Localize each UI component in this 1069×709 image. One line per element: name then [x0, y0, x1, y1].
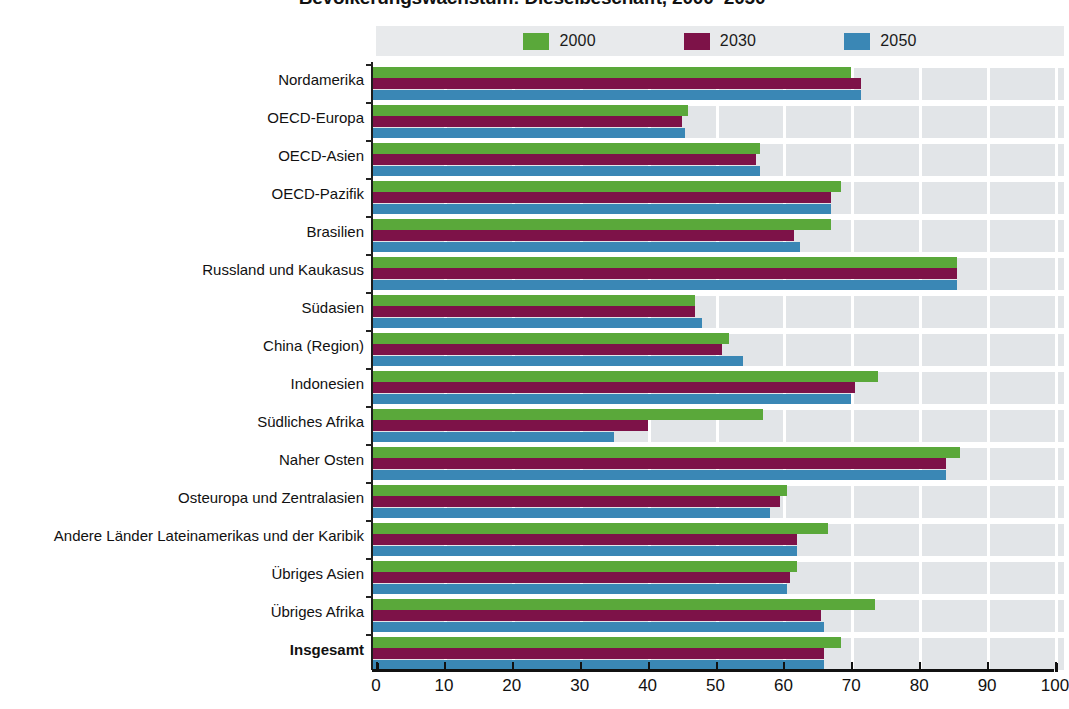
x-tick-50	[716, 662, 718, 670]
y-tick	[366, 140, 373, 142]
bar-2000--briges-afrika	[372, 599, 875, 610]
x-tick-20	[512, 662, 514, 670]
category-label-s-dliches-afrika: Südliches Afrika	[0, 414, 364, 430]
bar-2050-andere-l-nder-lateinamerikas-und-der-karibik	[372, 546, 797, 557]
legend-item-2000: 2000	[523, 32, 595, 50]
bar-2050-indonesien	[372, 394, 851, 405]
category-label-insgesamt: Insgesamt	[0, 642, 364, 658]
y-tick	[366, 216, 373, 218]
x-tick-label-50: 50	[706, 676, 725, 696]
x-tick-label-100: 100	[1041, 676, 1069, 696]
bar-2030-andere-l-nder-lateinamerikas-und-der-karibik	[372, 534, 797, 545]
y-tick	[366, 330, 373, 332]
bar-2030-osteuropa-und-zentralasien	[372, 496, 780, 507]
bar-2030-oecd-asien	[372, 154, 756, 165]
legend-swatch-2000	[523, 33, 549, 50]
category-label-oecd-europa: OECD-Europa	[0, 110, 364, 126]
category-label-china-region-: China (Region)	[0, 338, 364, 354]
y-tick	[366, 634, 373, 636]
bar-2050--briges-asien	[372, 584, 787, 595]
category-label-brasilien: Brasilien	[0, 224, 364, 240]
bar-2030-indonesien	[372, 382, 855, 393]
bar-2030-russland-und-kaukasus	[372, 268, 957, 279]
y-tick	[366, 292, 373, 294]
x-tick-10	[444, 662, 446, 670]
category-label-osteuropa-und-zentralasien: Osteuropa und Zentralasien	[0, 490, 364, 506]
x-tick-label-40: 40	[638, 676, 657, 696]
legend-swatch-2050	[844, 33, 870, 50]
x-tick-label-90: 90	[978, 676, 997, 696]
bar-2050-oecd-europa	[372, 128, 685, 139]
y-tick	[366, 406, 373, 408]
bar-2050-nordamerika	[372, 90, 861, 101]
category-label-s-dasien: Südasien	[0, 300, 364, 316]
plot-area	[372, 62, 1064, 670]
bar-2000-nordamerika	[372, 67, 851, 78]
category-label-indonesien: Indonesien	[0, 376, 364, 392]
bar-2030-insgesamt	[372, 648, 824, 659]
x-axis-line	[372, 669, 1054, 672]
bar-2000-insgesamt	[372, 637, 841, 648]
y-tick	[366, 520, 373, 522]
x-tick-label-30: 30	[570, 676, 589, 696]
x-tick-60	[783, 662, 785, 670]
legend-label-2030: 2030	[720, 32, 756, 50]
bar-2030--briges-asien	[372, 572, 790, 583]
bar-2030-oecd-europa	[372, 116, 682, 127]
bar-2030-naher-osten	[372, 458, 946, 469]
x-tick-label-20: 20	[502, 676, 521, 696]
bar-2050--briges-afrika	[372, 622, 824, 633]
bar-2030-s-dliches-afrika	[372, 420, 648, 431]
bar-2030-oecd-pazifik	[372, 192, 831, 203]
bar-2000-s-dliches-afrika	[372, 409, 763, 420]
category-label-russland-und-kaukasus: Russland und Kaukasus	[0, 262, 364, 278]
chart-legend: 2000 2030 2050	[376, 26, 1064, 56]
x-tick-label-10: 10	[434, 676, 453, 696]
bar-2050-s-dasien	[372, 318, 702, 329]
bar-2050-naher-osten	[372, 470, 946, 481]
legend-item-2030: 2030	[684, 32, 756, 50]
category-label-oecd-pazifik: OECD-Pazifik	[0, 186, 364, 202]
bar-2000-indonesien	[372, 371, 878, 382]
chart-title: Bevölkerungswachstum: Dieselbeschafft, 2…	[0, 0, 1064, 11]
legend-label-2000: 2000	[559, 32, 595, 50]
bar-2000-naher-osten	[372, 447, 960, 458]
category-label--briges-afrika: Übriges Afrika	[0, 604, 364, 620]
bar-2050-china-region-	[372, 356, 743, 367]
category-label-andere-l-nder-lateinamerikas-und-der-karibik: Andere Länder Lateinamerikas und der Kar…	[0, 528, 364, 544]
bar-2000-osteuropa-und-zentralasien	[372, 485, 787, 496]
category-label--briges-asien: Übriges Asien	[0, 566, 364, 582]
y-tick	[366, 178, 373, 180]
x-tick-90	[987, 662, 989, 670]
bar-2050-s-dliches-afrika	[372, 432, 614, 443]
y-tick	[366, 102, 373, 104]
bar-2030-brasilien	[372, 230, 794, 241]
legend-item-2050: 2050	[844, 32, 916, 50]
axis-end-cap	[376, 663, 379, 672]
bar-2030-china-region-	[372, 344, 722, 355]
bar-2000-russland-und-kaukasus	[372, 257, 957, 268]
bar-2000--briges-asien	[372, 561, 797, 572]
y-tick	[366, 64, 373, 66]
x-tick-30	[580, 662, 582, 670]
category-label-naher-osten: Naher Osten	[0, 452, 364, 468]
y-tick	[366, 444, 373, 446]
bar-2000-oecd-asien	[372, 143, 760, 154]
legend-label-2050: 2050	[880, 32, 916, 50]
category-label-oecd-asien: OECD-Asien	[0, 148, 364, 164]
y-tick	[366, 254, 373, 256]
x-tick-70	[851, 662, 853, 670]
y-tick	[366, 596, 373, 598]
y-tick	[366, 482, 373, 484]
x-tick-label-80: 80	[910, 676, 929, 696]
y-axis-line	[371, 62, 373, 670]
category-axis-labels: NordamerikaOECD-EuropaOECD-AsienOECD-Paz…	[0, 62, 372, 670]
x-tick-40	[648, 662, 650, 670]
x-tick-label-60: 60	[774, 676, 793, 696]
bar-2050-oecd-pazifik	[372, 204, 831, 215]
plot-wrap: NordamerikaOECD-EuropaOECD-AsienOECD-Paz…	[0, 62, 1064, 671]
bar-2000-andere-l-nder-lateinamerikas-und-der-karibik	[372, 523, 828, 534]
category-label-nordamerika: Nordamerika	[0, 72, 364, 88]
y-tick	[366, 558, 373, 560]
